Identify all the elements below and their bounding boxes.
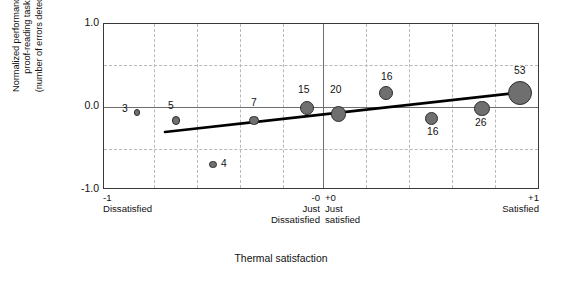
x-tick-value: +1 — [471, 192, 539, 203]
y-tick-minus-1: -1.0 — [59, 183, 99, 194]
data-point-label: 3 — [122, 103, 128, 114]
data-point-label: 4 — [221, 158, 227, 169]
y-tick-1: 1.0 — [59, 17, 99, 28]
x-tick-name: Satisfied — [471, 203, 539, 214]
data-point[interactable] — [249, 116, 258, 125]
data-point[interactable] — [331, 106, 347, 122]
x-tick-name-line-1: Just — [325, 203, 360, 214]
data-point[interactable] — [172, 116, 181, 125]
chart-figure: Normalized performance of proof-reading … — [0, 0, 562, 283]
y-axis-title-line-1: Normalized performance of — [11, 0, 22, 127]
x-tick-name-line-1: Just — [252, 203, 320, 214]
x-tick-value: -1 — [103, 192, 152, 203]
data-point[interactable] — [300, 101, 314, 115]
data-point[interactable] — [474, 101, 489, 116]
data-point-label: 7 — [251, 97, 257, 108]
y-axis-title-line-3: (number of errors detected) — [34, 0, 45, 127]
data-point-label: 5 — [168, 100, 174, 111]
x-tick-dissatisfied: -1 Dissatisfied — [103, 192, 152, 214]
data-point-label: 53 — [514, 65, 525, 76]
data-point[interactable] — [209, 161, 216, 168]
data-point-label: 16 — [427, 126, 438, 137]
y-tick-0: 0.0 — [59, 100, 99, 111]
x-tick-name-line-2: satisfied — [325, 214, 360, 225]
data-point[interactable] — [508, 81, 532, 105]
plot-area: 3 5 4 7 15 20 16 16 26 53 — [103, 23, 539, 189]
data-point-label: 26 — [475, 117, 486, 128]
x-tick-value: -0 — [252, 192, 320, 203]
data-point-label: 16 — [381, 71, 392, 82]
x-tick-just-satisfied: +0 Just satisfied — [325, 192, 360, 226]
data-point-label: 20 — [330, 84, 341, 95]
y-axis-title: Normalized performance of proof-reading … — [11, 0, 45, 127]
x-tick-name: Dissatisfied — [103, 203, 152, 214]
x-tick-satisfied: +1 Satisfied — [471, 192, 539, 214]
x-tick-value: +0 — [325, 192, 360, 203]
y-axis-title-line-2: proof-reading task — [22, 0, 33, 127]
data-point[interactable] — [134, 109, 140, 115]
x-tick-just-dissatisfied: -0 Just Dissatisfied — [252, 192, 320, 226]
x-tick-name-line-2: Dissatisfied — [252, 214, 320, 225]
data-point-label: 15 — [298, 84, 309, 95]
x-axis-title: Thermal satisfaction — [0, 253, 562, 264]
y-axis-ticks: 1.0 0.0 -1.0 — [55, 0, 99, 283]
